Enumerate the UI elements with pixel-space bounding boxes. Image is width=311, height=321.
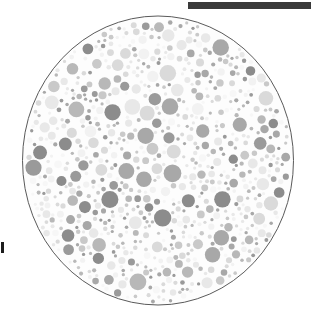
plate-dot <box>255 242 258 245</box>
plate-dot <box>230 70 236 76</box>
plate-dot <box>92 238 106 252</box>
plate-dot <box>234 146 238 150</box>
plate-dot <box>120 48 131 59</box>
plate-dot <box>89 228 99 238</box>
plate-dot <box>201 70 208 77</box>
plate-dot <box>172 274 175 277</box>
plate-dot <box>235 164 238 167</box>
plate-dot <box>60 99 64 103</box>
plate-dot <box>60 118 63 121</box>
plate-dot <box>229 100 232 103</box>
plate-dot <box>235 224 238 227</box>
plate-dot <box>139 240 142 243</box>
plate-dot <box>264 238 268 242</box>
plate-dot <box>137 189 141 193</box>
plate-dot <box>215 120 219 124</box>
plate-dot <box>179 252 186 259</box>
plate-dot <box>237 207 241 211</box>
plate-dot <box>96 191 100 195</box>
plate-dot <box>103 39 106 42</box>
plate-dot <box>164 51 167 54</box>
plate-dot <box>107 232 111 236</box>
plate-dot <box>151 300 155 304</box>
plate-dot <box>64 166 69 171</box>
plate-dot <box>277 147 280 150</box>
plate-dot <box>208 224 214 230</box>
plate-dot <box>140 106 155 121</box>
plate-dot <box>54 160 62 168</box>
plate-dot <box>60 203 65 208</box>
plate-dot <box>111 152 117 158</box>
plate-dot <box>201 184 208 191</box>
plate-dot <box>178 24 182 28</box>
plate-dot <box>137 128 153 144</box>
plate-dot <box>214 95 221 102</box>
plate-dot <box>138 210 143 215</box>
plate-dot <box>67 195 78 206</box>
plate-dot <box>162 46 165 49</box>
plate-dot <box>187 62 191 66</box>
plate-dot <box>42 192 45 195</box>
plate-dot <box>250 212 254 216</box>
plate-dot <box>149 276 152 279</box>
plate-dot <box>233 271 237 275</box>
plate-dot <box>122 35 125 38</box>
plate-dot <box>260 125 268 133</box>
plate-dot <box>161 282 165 286</box>
plate-dot <box>121 269 125 273</box>
plate-dot <box>201 33 211 43</box>
plate-dot <box>149 35 154 40</box>
plate-dot <box>97 183 101 187</box>
plate-dot <box>126 296 129 299</box>
plate-dot <box>66 87 69 90</box>
plate-dot <box>68 182 73 187</box>
plate-dot <box>126 65 130 69</box>
plate-dot <box>71 89 74 92</box>
plate-dot <box>80 118 85 123</box>
plate-dot <box>253 106 259 112</box>
plate-dot <box>272 154 275 157</box>
plate-dot <box>53 142 57 146</box>
plate-dot <box>142 23 150 31</box>
plate-dot <box>57 248 60 251</box>
plate-dot <box>251 186 255 190</box>
plate-dot <box>113 124 116 127</box>
plate-dot <box>145 203 154 212</box>
plate-dot <box>92 185 95 188</box>
plate-dot <box>59 138 72 151</box>
plate-dot <box>76 81 80 85</box>
plate-dot <box>268 163 272 167</box>
plate-dot <box>125 230 128 233</box>
plate-dot <box>133 53 137 57</box>
plate-dot <box>46 189 51 194</box>
plate-dot <box>182 114 188 120</box>
plate-dot <box>163 268 172 277</box>
plate-dot <box>166 126 170 130</box>
plate-dot <box>149 269 152 272</box>
plate-dot <box>108 219 111 222</box>
plate-dot <box>187 50 195 58</box>
plate-dot <box>118 233 123 238</box>
plate-dot <box>163 132 174 143</box>
plate-dot <box>248 78 256 86</box>
plate-dot <box>257 178 269 190</box>
plate-dot <box>226 217 230 221</box>
plate-dot <box>171 183 177 189</box>
plate-dot <box>258 229 266 237</box>
plate-dot <box>157 295 160 298</box>
cropped-text-fragment <box>1 242 4 251</box>
plate-dot <box>226 54 229 57</box>
plate-dot <box>234 65 238 69</box>
plate-dot <box>223 94 228 99</box>
plate-dot <box>45 220 49 224</box>
plate-dot <box>218 57 223 62</box>
plate-dot <box>220 224 223 227</box>
plate-dot <box>269 119 279 129</box>
plate-dot <box>213 158 221 166</box>
plate-dot <box>116 244 121 249</box>
plate-dot <box>77 185 80 188</box>
plate-dot <box>56 203 60 207</box>
plate-dot <box>138 36 146 44</box>
plate-dot <box>162 239 166 243</box>
plate-dot <box>278 179 283 184</box>
